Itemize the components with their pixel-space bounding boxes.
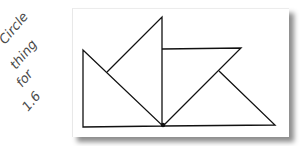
bottom-right-triangle — [163, 71, 275, 126]
top-triangle — [162, 48, 241, 126]
shared-vertex-dot — [161, 123, 165, 127]
page: Circle thing for 1.6 — [0, 0, 300, 146]
triangle-diagram — [0, 0, 300, 146]
left-right-triangle — [83, 50, 163, 127]
tall-triangle — [107, 17, 162, 126]
